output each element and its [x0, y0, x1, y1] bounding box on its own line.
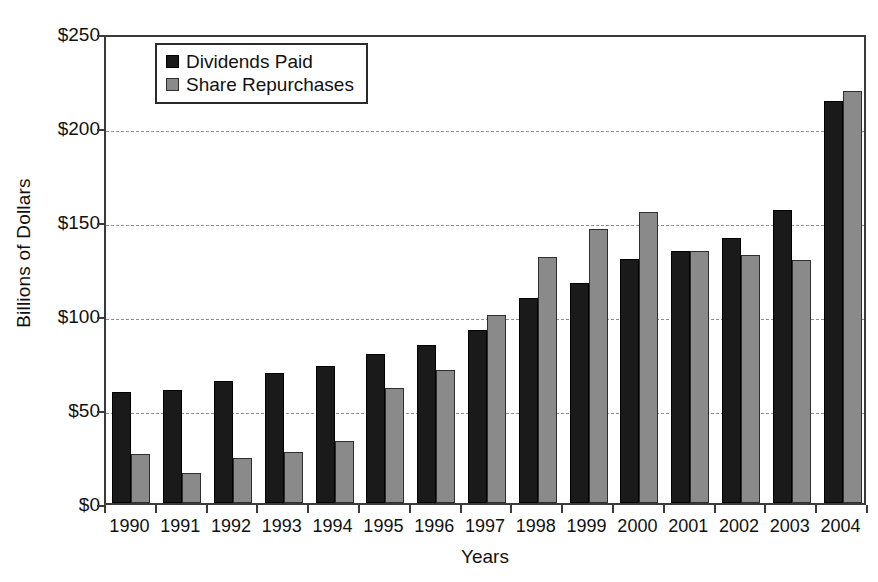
bar-2004-dividends-paid	[824, 101, 843, 503]
x-axis-tick-mark	[206, 505, 208, 513]
bar-2002-dividends-paid	[722, 238, 741, 503]
legend-swatch-icon	[166, 55, 179, 68]
x-axis-tick-label: 1991	[160, 516, 200, 537]
bar-chart: Billions of Dollars $0$50$100$150$200$25…	[0, 0, 878, 582]
bar-1990-share-repurchases	[131, 454, 150, 503]
y-axis-title-text: Billions of Dollars	[13, 178, 35, 328]
x-axis-title: Years	[104, 546, 866, 568]
x-axis-tick-mark	[256, 505, 258, 513]
x-axis-tick-label: 1997	[465, 516, 505, 537]
bar-group	[512, 37, 563, 503]
x-axis-tick-labels: 1990199119921993199419951996199719981999…	[104, 516, 866, 542]
bar-1999-dividends-paid	[570, 283, 589, 503]
x-axis-tick-mark	[663, 505, 665, 513]
x-axis-tick-label: 2003	[770, 516, 810, 537]
bar-1995-dividends-paid	[366, 354, 385, 503]
x-axis-tick-label: 1990	[109, 516, 149, 537]
x-axis-tick-mark	[358, 505, 360, 513]
x-axis-tick-label: 2004	[821, 516, 861, 537]
x-axis-tick-mark	[307, 505, 309, 513]
bar-1998-dividends-paid	[519, 298, 538, 503]
bar-group	[309, 37, 360, 503]
bar-1990-dividends-paid	[112, 392, 131, 503]
y-axis-tick-label: $150	[34, 212, 100, 234]
bar-group	[360, 37, 411, 503]
bar-1997-share-repurchases	[487, 315, 506, 503]
bar-1991-dividends-paid	[163, 390, 182, 503]
bar-2001-dividends-paid	[671, 251, 690, 503]
y-axis-tick-label: $50	[34, 400, 100, 422]
x-axis-tick-mark	[764, 505, 766, 513]
plot-frame	[104, 35, 866, 505]
bar-group	[462, 37, 513, 503]
chart-legend: Dividends PaidShare Repurchases	[155, 43, 368, 104]
x-axis-tick-mark	[104, 505, 106, 513]
legend-item-label: Dividends Paid	[186, 52, 313, 71]
bar-1999-share-repurchases	[589, 229, 608, 503]
x-axis-tick-label: 1994	[313, 516, 353, 537]
bar-group	[766, 37, 817, 503]
bar-2004-share-repurchases	[843, 91, 862, 503]
bar-2002-share-repurchases	[741, 255, 760, 503]
bar-1994-share-repurchases	[335, 441, 354, 503]
x-axis-tick-label: 1993	[262, 516, 302, 537]
y-axis-tick-label: $250	[34, 24, 100, 46]
bar-1993-dividends-paid	[265, 373, 284, 503]
y-axis-tick-mark	[97, 129, 105, 131]
x-axis-tick-label: 1996	[414, 516, 454, 537]
y-axis-tick-label: $200	[34, 118, 100, 140]
x-axis-tick-label: 1998	[516, 516, 556, 537]
x-axis-tick-mark	[714, 505, 716, 513]
bar-1996-share-repurchases	[436, 370, 455, 503]
bar-1998-share-repurchases	[538, 257, 557, 503]
x-axis-tick-label: 2000	[617, 516, 657, 537]
bar-2000-dividends-paid	[620, 259, 639, 503]
legend-item-label: Share Repurchases	[186, 75, 354, 94]
x-axis-tick-label: 1999	[567, 516, 607, 537]
legend-item: Dividends Paid	[166, 50, 354, 73]
x-axis-tick-mark	[460, 505, 462, 513]
bar-1996-dividends-paid	[417, 345, 436, 503]
x-axis-tick-mark	[561, 505, 563, 513]
y-axis-tick-mark	[97, 223, 105, 225]
bar-2001-share-repurchases	[690, 251, 709, 503]
bar-2003-share-repurchases	[792, 260, 811, 503]
bar-group	[106, 37, 157, 503]
legend-swatch-icon	[166, 78, 179, 91]
x-axis-tick-label: 1992	[211, 516, 251, 537]
bar-group	[563, 37, 614, 503]
x-axis-tick-mark	[866, 505, 868, 513]
plot-area	[106, 37, 864, 503]
bar-1992-share-repurchases	[233, 458, 252, 503]
y-axis-tick-labels: $0$50$100$150$200$250	[34, 0, 100, 582]
bar-group	[411, 37, 462, 503]
bar-group	[208, 37, 259, 503]
y-axis-tick-mark	[97, 317, 105, 319]
bar-2000-share-repurchases	[639, 212, 658, 503]
x-axis-tick-mark	[510, 505, 512, 513]
bar-group	[157, 37, 208, 503]
bar-1992-dividends-paid	[214, 381, 233, 503]
x-axis-tick-label: 2002	[719, 516, 759, 537]
x-axis-tick-mark	[155, 505, 157, 513]
y-axis-tick-label: $100	[34, 306, 100, 328]
bar-1994-dividends-paid	[316, 366, 335, 503]
bar-1997-dividends-paid	[468, 330, 487, 503]
bar-1993-share-repurchases	[284, 452, 303, 503]
x-axis-tick-label: 2001	[668, 516, 708, 537]
bar-group	[716, 37, 767, 503]
bar-2003-dividends-paid	[773, 210, 792, 503]
bar-group	[614, 37, 665, 503]
bar-group	[258, 37, 309, 503]
bar-group	[665, 37, 716, 503]
bar-group	[817, 37, 868, 503]
x-axis-tick-label: 1995	[363, 516, 403, 537]
y-axis-tick-mark	[97, 411, 105, 413]
y-axis-tick-label: $0	[34, 494, 100, 516]
bar-1995-share-repurchases	[385, 388, 404, 503]
x-axis-tick-mark	[409, 505, 411, 513]
x-axis-tick-mark	[815, 505, 817, 513]
bar-1991-share-repurchases	[182, 473, 201, 503]
x-axis-tick-mark	[612, 505, 614, 513]
y-axis-tick-mark	[97, 35, 105, 37]
